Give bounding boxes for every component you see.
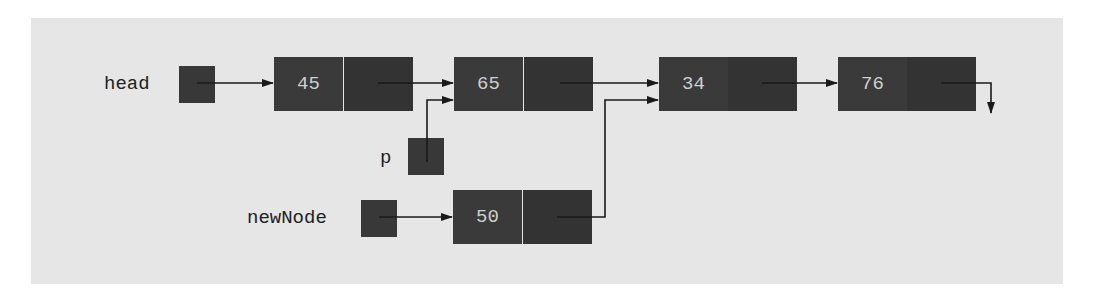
node-76-link (907, 57, 976, 111)
p-label: p (380, 149, 391, 168)
node-34-link (728, 57, 797, 111)
head-pointer-box (179, 66, 215, 103)
node-65-link (524, 57, 593, 111)
node-50-link (523, 190, 592, 244)
newnode-pointer-box (361, 200, 397, 237)
node-45-info: 45 (274, 57, 343, 111)
newnode-label: newNode (247, 209, 327, 228)
node-45-link (344, 57, 413, 111)
head-label: head (104, 75, 150, 94)
node-65-info: 65 (454, 57, 523, 111)
node-34-info: 34 (659, 57, 728, 111)
node-50-info: 50 (453, 190, 522, 244)
node-76-info: 76 (838, 57, 907, 111)
p-pointer-box (408, 138, 444, 175)
